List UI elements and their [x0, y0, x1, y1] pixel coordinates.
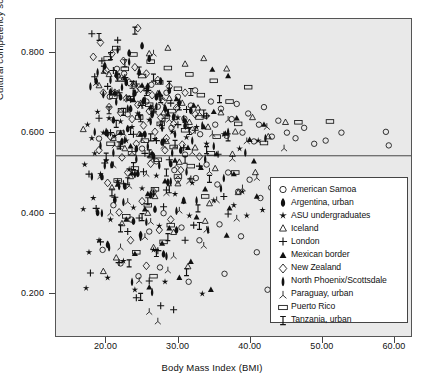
legend-item-label: Iceland — [291, 223, 318, 233]
filled-narrow-icon — [275, 274, 291, 287]
legend-item-label: ASU undergraduates — [291, 210, 370, 220]
y-tick-label: 0.600 — [4, 127, 44, 137]
legend-item-asu-undergraduates[interactable]: ASU undergraduates — [275, 208, 404, 221]
plus-icon — [275, 234, 291, 247]
legend-item-label: New Zealand — [291, 262, 341, 272]
y-tick-label: 0.800 — [4, 47, 44, 57]
legend-item-label: Argentina, urban — [291, 197, 354, 207]
legend-item-label: Mexican border — [291, 249, 350, 259]
legend-item-label: North Phoenix/Scottsdale — [291, 275, 387, 285]
x-tick-mark — [178, 337, 179, 343]
legend-item-mexican-border[interactable]: Mexican border — [275, 247, 404, 260]
series-tanzania-urban — [97, 27, 231, 300]
open-circle-icon — [275, 182, 291, 195]
legend-item-paraguay-urban[interactable]: Paraguay, urban — [275, 287, 404, 300]
filled-triangle-icon — [275, 248, 291, 261]
y-tick-label: 0.200 — [4, 288, 44, 298]
scatter-plot-figure: Cultural competency scores 0.8000.6000.4… — [0, 0, 424, 378]
legend-item-new-zealand[interactable]: New Zealand — [275, 261, 404, 274]
y-axis-title: Cultural competency scores — [0, 0, 5, 120]
legend-item-american-samoa[interactable]: American Samoa — [275, 182, 404, 195]
x-tick-mark — [322, 337, 323, 343]
legend-item-london[interactable]: London — [275, 234, 404, 247]
open-triangle-icon — [275, 221, 291, 234]
legend-item-label: Puerto Rico — [291, 301, 335, 311]
x-axis-title: Body Mass Index (BMI) — [0, 362, 424, 373]
x-tick-mark — [250, 337, 251, 343]
legend-item-tanzania-urban[interactable]: Tanzania, urban — [275, 313, 404, 326]
legend-item-label: Tanzania, urban — [291, 314, 351, 324]
legend-item-iceland[interactable]: Iceland — [275, 221, 404, 234]
legend-item-north-phoenix-scottsdale[interactable]: North Phoenix/Scottsdale — [275, 274, 404, 287]
legend-item-label: American Samoa — [291, 184, 356, 194]
star-icon — [275, 208, 291, 221]
x-tick-mark — [105, 337, 106, 343]
series-new-zealand — [90, 24, 203, 269]
legend-item-label: London — [291, 236, 319, 246]
legend-box: American SamoaArgentina, urbanASU underg… — [270, 177, 408, 323]
y-tick-label: 0.400 — [4, 208, 44, 218]
tripod-icon — [275, 287, 291, 300]
legend-item-argentina-urban[interactable]: Argentina, urban — [275, 195, 404, 208]
ibeam-icon — [275, 313, 291, 326]
open-rect-icon — [275, 300, 291, 313]
open-diamond-icon — [275, 261, 291, 274]
legend-item-label: Paraguay, urban — [291, 288, 353, 298]
x-tick-mark — [394, 337, 395, 343]
filled-teardrop-icon — [275, 195, 291, 208]
legend-item-puerto-rico[interactable]: Puerto Rico — [275, 300, 404, 313]
